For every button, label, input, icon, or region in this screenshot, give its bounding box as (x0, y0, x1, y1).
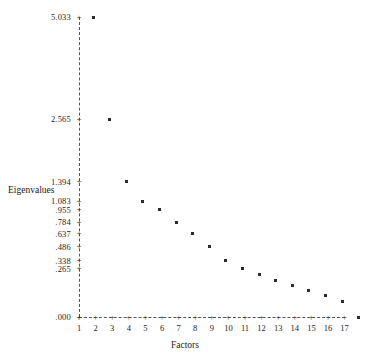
x-tick-mark: + (75, 313, 83, 322)
x-tick-mark: + (175, 313, 183, 322)
x-tick-mark: + (125, 313, 133, 322)
scree-plot: 5.033+2.565+1.394+1.083+.955+.784+.637+.… (0, 0, 370, 361)
y-tick-label: .784 (55, 218, 71, 227)
y-tick-label: .486 (55, 243, 71, 252)
data-point (258, 273, 261, 276)
data-point (307, 289, 310, 292)
data-point (357, 316, 360, 319)
data-point (92, 16, 95, 19)
x-tick-mark: + (307, 313, 315, 322)
data-point (141, 200, 144, 203)
x-tick-mark: + (324, 313, 332, 322)
y-tick-mark: + (75, 205, 83, 214)
x-axis-title: Factors (0, 341, 370, 351)
data-point (241, 267, 244, 270)
x-tick-mark: + (158, 313, 166, 322)
data-point (191, 232, 194, 235)
data-point (175, 221, 178, 224)
x-tick-mark: + (341, 313, 349, 322)
data-point (158, 208, 161, 211)
x-tick-mark: + (274, 313, 282, 322)
data-point (108, 118, 111, 121)
y-tick-label: .265 (55, 265, 71, 274)
y-tick-label: 5.033 (51, 13, 71, 22)
x-tick-mark: + (241, 313, 249, 322)
y-tick-mark: + (75, 13, 83, 22)
data-point (291, 284, 294, 287)
x-tick-label: 17 (335, 324, 355, 333)
y-tick-mark: + (75, 177, 83, 186)
x-tick-mark: + (291, 313, 299, 322)
y-tick-mark: + (75, 115, 83, 124)
data-point (125, 180, 128, 183)
y-tick-label: .000 (55, 313, 71, 322)
data-point (208, 245, 211, 248)
data-point (324, 294, 327, 297)
x-tick-mark: + (141, 313, 149, 322)
x-tick-mark: + (224, 313, 232, 322)
y-tick-label: 2.565 (51, 115, 71, 124)
y-tick-label: .955 (55, 206, 71, 215)
y-tick-label: .637 (55, 230, 71, 239)
x-tick-mark: + (208, 313, 216, 322)
data-point (224, 259, 227, 262)
data-point (341, 300, 344, 303)
x-tick-mark: + (258, 313, 266, 322)
y-tick-mark: + (75, 218, 83, 227)
y-axis-title: Eigenvalues (8, 186, 54, 196)
data-point (274, 279, 277, 282)
x-tick-mark: + (191, 313, 199, 322)
y-tick-mark: + (75, 242, 83, 251)
y-tick-mark: + (75, 229, 83, 238)
x-tick-mark: + (92, 313, 100, 322)
y-tick-mark: + (75, 264, 83, 273)
x-tick-mark: + (108, 313, 116, 322)
